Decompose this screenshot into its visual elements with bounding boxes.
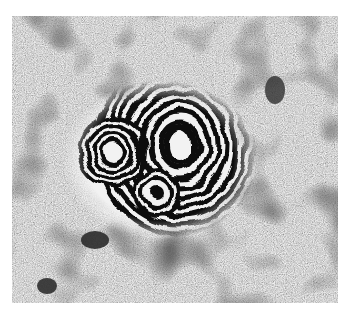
dark-spot	[265, 76, 285, 104]
fringe-pattern-graphic	[12, 16, 338, 303]
dark-spot	[37, 278, 57, 294]
interference-fringes	[60, 56, 263, 245]
speckle-fringe-image	[12, 16, 338, 303]
